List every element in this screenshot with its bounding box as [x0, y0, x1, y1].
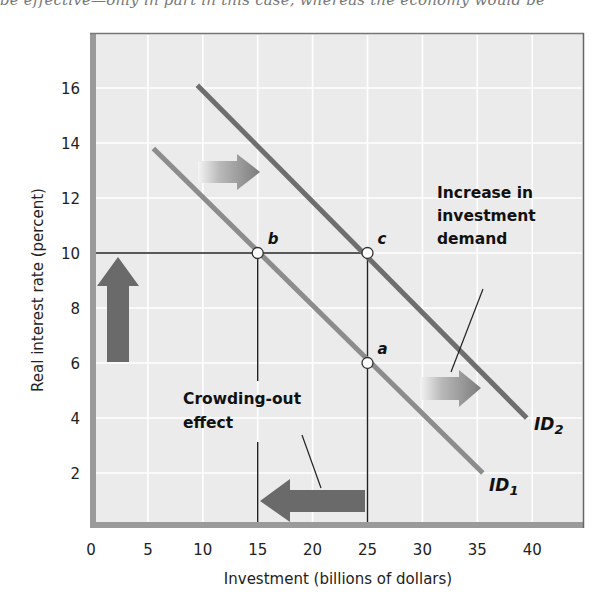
investment-demand-chart: bca Increase in investment demand Crowdi… [0, 0, 608, 613]
y-tick-label: 14 [61, 135, 80, 153]
y-axis-ticks: 246810121416 [61, 80, 80, 483]
x-tick-label: 25 [358, 541, 377, 559]
y-tick-label: 16 [61, 80, 80, 98]
x-tick-label: 15 [248, 541, 267, 559]
plot-frame [90, 33, 584, 528]
point-b [252, 248, 263, 259]
y-tick-label: 6 [70, 355, 80, 373]
point-label-c: c [378, 230, 387, 248]
plot-background [90, 33, 584, 528]
y-tick-label: 4 [70, 410, 80, 428]
point-label-b: b [268, 230, 279, 248]
x-tick-label: 0 [86, 541, 96, 559]
frame-left-shadow [90, 33, 96, 528]
point-a [362, 358, 373, 369]
x-axis-title: Investment (billions of dollars) [224, 570, 452, 588]
x-tick-label: 40 [523, 541, 542, 559]
y-axis-title: Real interest rate (percent) [29, 188, 47, 392]
x-axis-ticks: 0510152025303540 [86, 541, 542, 559]
x-tick-label: 35 [468, 541, 487, 559]
y-tick-label: 2 [70, 465, 80, 483]
x-tick-label: 10 [193, 541, 212, 559]
x-tick-label: 20 [303, 541, 322, 559]
x-tick-label: 30 [413, 541, 432, 559]
y-tick-label: 12 [61, 190, 80, 208]
point-label-a: a [378, 340, 388, 358]
point-c [362, 248, 373, 259]
y-tick-label: 8 [70, 300, 80, 318]
x-tick-label: 5 [143, 541, 153, 559]
y-tick-label: 10 [61, 245, 80, 263]
frame-bottom-shadow [90, 522, 584, 528]
